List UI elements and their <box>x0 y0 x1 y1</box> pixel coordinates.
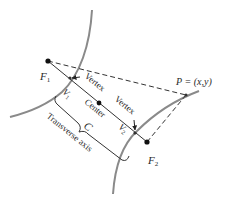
dashed-line-f2-p <box>147 95 186 142</box>
vertex1-text: Vertex <box>83 71 108 94</box>
focus1-point <box>45 58 50 63</box>
vertex2-arrow <box>134 120 135 130</box>
focus1-label: F1 <box>39 70 51 84</box>
focus2-label: F2 <box>147 154 159 168</box>
point-p-label: P = (x,y) <box>175 76 212 88</box>
vertex2-label: V2 <box>116 122 130 136</box>
point-p <box>184 93 187 96</box>
focus2-point <box>144 139 149 144</box>
vertex2-point <box>133 131 136 134</box>
hyperbola-diagram: F1 F2 V1 V2 Vertex Vertex Center C Trans… <box>0 0 246 202</box>
vertex2-text: Vertex <box>113 94 138 117</box>
vertex1-label: V1 <box>60 87 74 101</box>
vertex1-point <box>68 76 71 79</box>
